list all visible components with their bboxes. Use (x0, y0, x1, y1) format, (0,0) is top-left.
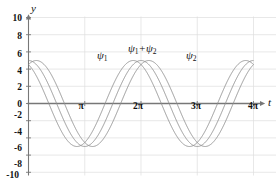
y-tick-label-6: 6 (2, 49, 22, 59)
y-tick-label-m8: -8 (2, 159, 22, 169)
y-tick-label-m2: -2 (2, 110, 22, 120)
chart-figure: y t 10 8 6 4 2 0 -2 -4 -6 -8 -10 π 2π 3π… (0, 0, 277, 180)
y-tick-label-m4: -4 (2, 127, 22, 137)
y-tick-label-10: 10 (2, 13, 22, 23)
y-tick-label-4: 4 (2, 66, 22, 76)
x-tick-label-pi: π (70, 101, 92, 111)
annotation-psi-sum-subscript-2: 2 (153, 47, 157, 56)
annotation-psi-sum-operator: +ψ (139, 42, 153, 54)
x-axis-title: t (268, 96, 271, 108)
annotation-psi2: ψ2 (186, 49, 197, 63)
x-tick-label-3pi: 3π (185, 101, 207, 111)
annotation-psi2-symbol: ψ (186, 49, 193, 61)
annotation-psi-sum: ψ1+ψ2 (128, 42, 157, 56)
annotation-psi2-subscript: 2 (193, 54, 197, 63)
annotation-psi1: ψ1 (97, 49, 108, 63)
y-tick-label-2: 2 (2, 82, 22, 92)
chart-plot-area (0, 0, 277, 180)
annotation-psi1-symbol: ψ (97, 49, 104, 61)
y-tick-label-8: 8 (2, 31, 22, 41)
x-tick-label-4pi: 4π (242, 101, 264, 111)
annotation-psi1-subscript: 1 (104, 54, 108, 63)
y-axis-title: y (31, 2, 36, 14)
y-tick-label-m6: -6 (2, 143, 22, 153)
y-tick-label-m10: -10 (0, 170, 19, 180)
x-tick-label-2pi: 2π (127, 101, 149, 111)
annotation-psi-sum-symbol-1: ψ (128, 42, 135, 54)
y-tick-label-0: 0 (2, 99, 22, 109)
